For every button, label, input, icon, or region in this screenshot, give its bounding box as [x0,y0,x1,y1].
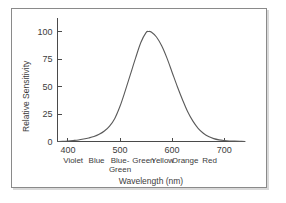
y-tick-label: 50 [42,82,52,92]
color-band-label: Violet [63,156,84,165]
color-band-label: Red [202,156,217,165]
color-band-label: Green [109,165,131,174]
x-tick-label-group: 400500600700 [60,145,231,155]
x-tick-label: 700 [217,145,232,155]
x-tick-label: 400 [60,145,75,155]
y-tick-label: 75 [42,54,52,64]
color-band-label-group: VioletBlueBlue-GreenGreenYellowOrangeRed [63,156,217,174]
y-tick-label-group: 0255075100 [37,27,52,147]
color-band-label: Orange [172,156,199,165]
figure-root: 0255075100 400500600700 VioletBlueBlue-G… [0,0,286,203]
y-tick-label: 25 [42,109,52,119]
y-tick-label: 100 [37,27,52,37]
color-band-label: Blue- [111,156,130,165]
y-tick-group [58,32,62,142]
y-axis-title: Relative Sensitivity [21,60,31,132]
y-tick-label: 0 [47,137,52,147]
x-tick-group [68,138,224,142]
x-tick-label: 500 [112,145,127,155]
x-axis-title: Wavelength (nm) [119,176,184,186]
sensitivity-curve [58,31,246,141]
color-band-label: Blue [89,156,106,165]
sensitivity-chart: 0255075100 400500600700 VioletBlueBlue-G… [0,0,286,203]
x-tick-label: 600 [165,145,180,155]
